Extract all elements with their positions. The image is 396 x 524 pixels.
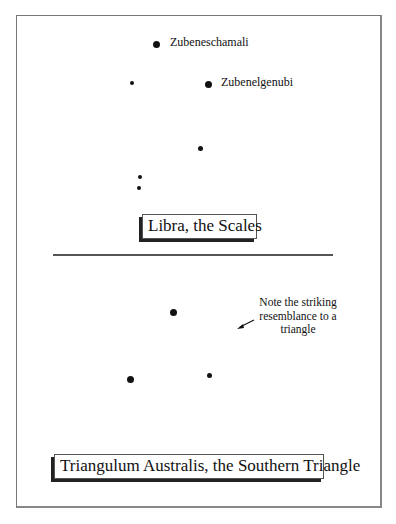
star bbox=[207, 373, 212, 378]
star bbox=[127, 376, 134, 383]
annotation-note: Note the striking resemblance to a trian… bbox=[248, 296, 348, 337]
star bbox=[137, 186, 141, 190]
star bbox=[170, 309, 177, 316]
star bbox=[198, 146, 203, 151]
label-zubeneschamali: Zubeneschamali bbox=[170, 35, 249, 49]
page-frame bbox=[16, 15, 382, 508]
label-zubenelgenubi: Zubenelgenubi bbox=[221, 75, 293, 89]
triangulum-title: Triangulum Australis, the Southern Trian… bbox=[54, 454, 324, 479]
star-zubenelgenubi bbox=[205, 81, 212, 88]
star-zubeneschamali bbox=[153, 41, 160, 48]
libra-title: Libra, the Scales bbox=[142, 214, 257, 239]
star bbox=[138, 175, 142, 179]
star bbox=[130, 81, 134, 85]
arrow-icon bbox=[236, 318, 256, 330]
section-divider bbox=[53, 254, 333, 256]
